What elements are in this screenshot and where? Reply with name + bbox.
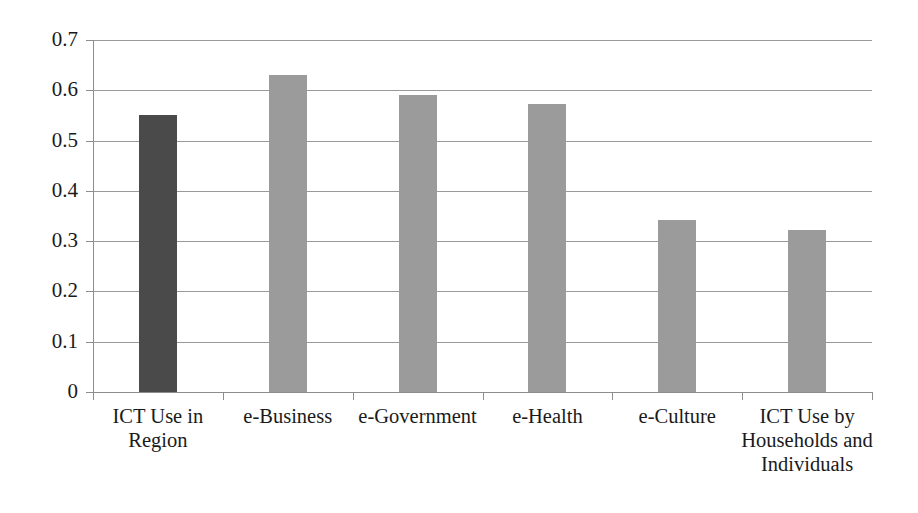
bar xyxy=(528,104,566,392)
y-axis-tick xyxy=(86,342,94,343)
gridline xyxy=(93,241,872,242)
y-axis-tick-label: 0.1 xyxy=(18,331,78,352)
bar xyxy=(269,75,307,392)
gridline xyxy=(93,291,872,292)
x-axis-tick xyxy=(353,392,354,400)
bar xyxy=(788,230,826,392)
x-axis-category-label-line: Individuals xyxy=(731,452,883,476)
gridline xyxy=(93,191,872,192)
bar-chart: 00.10.20.30.40.50.60.7 ICT Use inRegione… xyxy=(0,0,918,513)
gridline xyxy=(93,141,872,142)
x-axis-tick xyxy=(93,392,94,400)
bar xyxy=(658,220,696,392)
x-axis-category-label-line: ICT Use by xyxy=(731,404,883,428)
x-axis-category-label-line: Households and xyxy=(731,428,883,452)
y-axis-tick-label: 0 xyxy=(18,381,78,402)
x-axis-tick xyxy=(742,392,743,400)
x-axis-tick xyxy=(612,392,613,400)
y-axis-line xyxy=(93,40,94,393)
bar xyxy=(139,115,177,392)
y-axis-tick-label: 0.3 xyxy=(18,230,78,251)
y-axis-tick-label: 0.5 xyxy=(18,130,78,151)
y-axis-tick-label: 0.2 xyxy=(18,280,78,301)
x-axis-category-label: ICT Use byHouseholds andIndividuals xyxy=(731,404,883,477)
bar xyxy=(399,95,437,392)
y-axis-tick xyxy=(86,141,94,142)
gridline xyxy=(93,40,872,41)
y-axis-tick xyxy=(86,191,94,192)
plot-area xyxy=(93,40,872,392)
y-axis-tick xyxy=(86,90,94,91)
y-axis-tick-label: 0.7 xyxy=(18,29,78,50)
y-axis-tick xyxy=(86,241,94,242)
gridline xyxy=(93,90,872,91)
y-axis-tick xyxy=(86,291,94,292)
y-axis-tick-label: 0.4 xyxy=(18,180,78,201)
x-axis-category-label-line: Region xyxy=(82,428,234,452)
x-axis-tick xyxy=(483,392,484,400)
y-axis-tick-label: 0.6 xyxy=(18,79,78,100)
gridline xyxy=(93,342,872,343)
y-axis-tick xyxy=(86,40,94,41)
x-axis-tick xyxy=(223,392,224,400)
x-axis-tick xyxy=(872,392,873,400)
